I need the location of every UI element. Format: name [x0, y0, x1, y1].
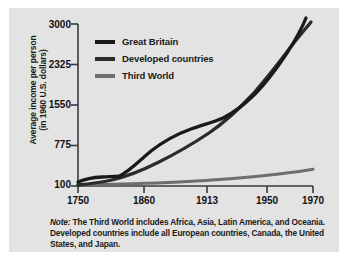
legend-swatch-third-world [95, 74, 115, 78]
note-text: The Third World includes Africa, Asia, L… [50, 217, 325, 249]
legend-label-great-britain: Great Britain [122, 36, 178, 47]
legend-label-third-world: Third World [122, 70, 174, 81]
plot-area: Average income per person (in 1960 U.S. … [9, 8, 339, 213]
chart-note: Note: The Third World includes Africa, A… [50, 217, 330, 250]
chart-legend: Great Britain Developed countries Third … [95, 34, 214, 85]
legend-swatch-developed-countries [95, 57, 115, 61]
legend-item-great-britain: Great Britain [95, 34, 214, 49]
legend-label-developed-countries: Developed countries [122, 53, 214, 64]
legend-item-third-world: Third World [95, 68, 214, 83]
legend-item-developed-countries: Developed countries [95, 51, 214, 66]
legend-swatch-great-britain [95, 40, 115, 44]
note-label: Note: [50, 217, 70, 227]
figure-panel: Average income per person (in 1960 U.S. … [9, 8, 339, 252]
